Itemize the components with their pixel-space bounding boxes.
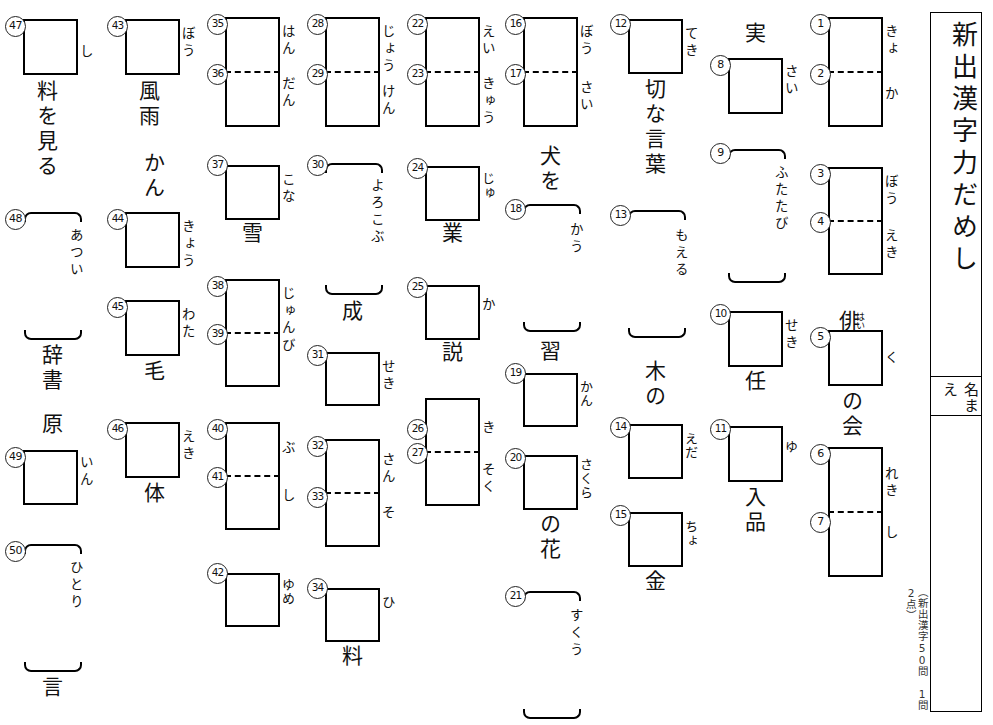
- context-18-above: 犬を: [536, 145, 560, 195]
- reading-28: じょう: [380, 24, 395, 75]
- answer-box-5[interactable]: [828, 330, 883, 386]
- question-number-3: 3: [810, 164, 831, 185]
- answer-box-49[interactable]: [23, 450, 78, 505]
- reading-30: よろこぶ: [369, 178, 384, 246]
- reading-44: きょう: [180, 219, 195, 270]
- question-number-15: 15: [610, 505, 631, 526]
- context-11: 入品: [741, 486, 765, 536]
- reading-26: き: [480, 420, 495, 437]
- question-number-29: 29: [307, 64, 328, 85]
- answer-box-42[interactable]: [225, 573, 280, 627]
- reading-1: きょ: [883, 24, 898, 58]
- context-37: 雪: [238, 222, 262, 247]
- answer-box-24[interactable]: [425, 166, 480, 221]
- answer-box-37[interactable]: [225, 165, 280, 220]
- reading-9: ふたたび: [773, 165, 788, 233]
- reading-29: けん: [380, 84, 395, 118]
- question-number-26: 26: [407, 419, 428, 440]
- reading-49: いん: [78, 455, 93, 489]
- question-number-41: 41: [207, 467, 228, 488]
- question-number-9: 9: [710, 143, 731, 164]
- reading-40: ぶ: [280, 440, 295, 457]
- title-panel: 新出漢字力だめし 名まえ: [930, 12, 982, 712]
- answer-box-16-17[interactable]: [523, 17, 578, 127]
- answer-box-25[interactable]: [425, 285, 480, 340]
- answer-box-8[interactable]: [728, 58, 783, 114]
- answer-box-47[interactable]: [23, 19, 78, 75]
- reading-27: そく: [480, 462, 495, 496]
- context-10: 任: [741, 370, 765, 395]
- answer-box-6-7[interactable]: [828, 447, 883, 577]
- answer-box-34[interactable]: [325, 588, 380, 642]
- context-49: 原: [38, 413, 62, 438]
- reading-24: じゅ: [480, 172, 495, 200]
- answer-box-45[interactable]: [125, 300, 180, 356]
- context-48: 辞書: [38, 344, 62, 394]
- question-number-19: 19: [505, 363, 526, 384]
- answer-box-14[interactable]: [628, 424, 683, 479]
- question-number-43: 43: [107, 16, 128, 37]
- reading-11: ゆ: [783, 440, 798, 454]
- answer-box-28-29[interactable]: [325, 17, 380, 127]
- answer-box-12[interactable]: [628, 19, 683, 74]
- answer-box-1-2[interactable]: [828, 17, 883, 127]
- answer-box-44[interactable]: [125, 212, 180, 268]
- answer-box-35-36[interactable]: [225, 17, 280, 127]
- question-number-44: 44: [107, 209, 128, 230]
- answer-box-20[interactable]: [523, 455, 578, 510]
- answer-box-32-33[interactable]: [325, 439, 380, 547]
- reading-7: し: [883, 525, 898, 542]
- column-7: 12 てき 切な言葉 13 もえる 木の 14 えだ 15 ちょ 金: [605, 0, 705, 725]
- question-number-34: 34: [307, 578, 328, 599]
- reading-45: わた: [180, 307, 195, 341]
- question-number-10: 10: [710, 304, 731, 325]
- context-47: 料を見る: [33, 80, 57, 180]
- question-number-38: 38: [207, 276, 228, 297]
- name-field-label: 名まえ: [931, 380, 981, 416]
- column-4: 28 29 じょう けん 30 よろこぶ 成 31 せき 32 33 さん そ …: [304, 0, 404, 725]
- answer-box-11[interactable]: [728, 426, 783, 482]
- reading-31: せき: [380, 359, 395, 393]
- answer-box-15[interactable]: [628, 512, 683, 567]
- answer-box-10[interactable]: [728, 311, 783, 367]
- footnote-scoring: （新出漢字50問 1問2点）: [905, 587, 927, 717]
- question-number-48: 48: [5, 209, 26, 230]
- question-number-14: 14: [610, 417, 631, 438]
- question-number-21: 21: [505, 586, 526, 607]
- question-number-7: 7: [810, 512, 831, 533]
- reading-19: かん: [578, 380, 593, 408]
- answer-box-46[interactable]: [125, 422, 180, 478]
- answer-box-26-27[interactable]: [425, 398, 480, 506]
- question-number-32: 32: [307, 436, 328, 457]
- question-number-22: 22: [407, 14, 428, 35]
- question-number-50: 50: [5, 541, 26, 562]
- reading-12: てき: [683, 26, 698, 60]
- question-number-12: 12: [610, 14, 631, 35]
- reading-25: か: [480, 297, 495, 314]
- context-44: かん: [140, 152, 164, 202]
- answer-box-19[interactable]: [523, 373, 578, 427]
- reading-14: えだ: [683, 432, 698, 460]
- reading-41: し: [280, 488, 295, 505]
- context-5-below: の会: [838, 390, 862, 440]
- question-number-28: 28: [307, 14, 328, 35]
- column-5: 22 23 えい きゅう 24 じゅ 業 25 か 説 26 27 き そく: [404, 0, 504, 725]
- answer-box-43[interactable]: [125, 19, 180, 75]
- answer-box-3-4[interactable]: [828, 167, 883, 275]
- answer-box-38-39[interactable]: [225, 279, 280, 387]
- answer-box-40-41[interactable]: [225, 422, 280, 530]
- reading-37: こな: [280, 172, 295, 206]
- reading-16: ぼう: [578, 24, 593, 58]
- answer-box-22-23[interactable]: [425, 17, 480, 127]
- answer-box-31[interactable]: [325, 352, 380, 406]
- reading-47: し: [78, 44, 93, 61]
- reading-21: すくう: [568, 608, 583, 659]
- page-title: 新出漢字力だめし: [931, 21, 981, 371]
- column-3: 35 36 はん だん 37 こな 雪 38 39 じゅん び 40 41 ぶ …: [204, 0, 304, 725]
- reading-43: ぼう: [180, 26, 195, 60]
- question-number-30: 30: [307, 155, 328, 176]
- question-number-20: 20: [505, 448, 526, 469]
- question-number-5: 5: [810, 327, 831, 348]
- question-number-16: 16: [505, 14, 526, 35]
- question-number-39: 39: [207, 324, 228, 345]
